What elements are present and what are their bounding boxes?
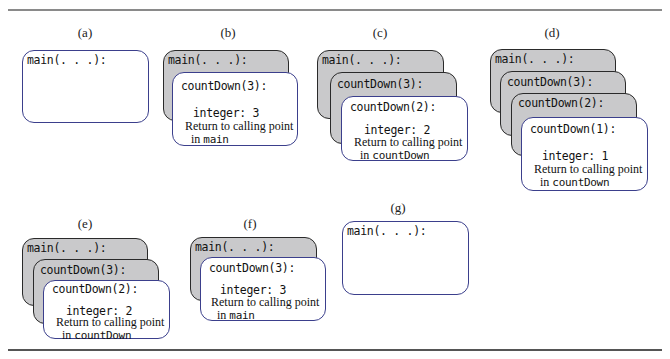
return-in: in <box>62 328 71 342</box>
frame-title: countDown(2): <box>350 100 436 114</box>
panel-label: (e) <box>78 216 92 232</box>
main-frame: main(. . .): <box>22 50 149 123</box>
panel-label: (d) <box>544 25 559 41</box>
frame-title: countDown(3): <box>209 261 295 275</box>
return-in: in <box>540 175 549 189</box>
return-target: main <box>229 309 254 322</box>
frame-title: main(. . .): <box>495 52 574 66</box>
return-target: main <box>203 133 228 146</box>
return-target: countDown <box>372 149 429 162</box>
main-frame: main(. . .): <box>342 221 469 295</box>
countdown-2-frame: countDown(2): integer: 2 Return to calli… <box>341 96 468 161</box>
return-in: in <box>217 308 226 322</box>
frame-title: countDown(3): <box>337 77 423 91</box>
countdown-1-frame: countDown(1): integer: 1 Return to calli… <box>521 117 648 191</box>
return-note: Return to calling point in countDown <box>534 163 642 189</box>
frame-title: countDown(2): <box>52 282 138 296</box>
frame-title: main(. . .): <box>168 53 247 67</box>
frame-title: main(. . .): <box>195 240 274 254</box>
countdown-2-frame: countDown(2): integer: 2 Return to calli… <box>43 280 170 339</box>
frame-title: main(. . .): <box>347 224 426 238</box>
variable-value: integer: 3 <box>193 106 259 120</box>
return-note: Return to calling point in countDown <box>56 316 164 342</box>
bottom-rule <box>8 349 662 351</box>
frame-title: countDown(3): <box>40 263 126 277</box>
frame-title: countDown(1): <box>530 122 616 136</box>
frame-title: countDown(2): <box>518 96 604 110</box>
return-note: Return to calling point in main <box>185 120 293 146</box>
panel-label: (g) <box>390 200 405 216</box>
return-in: in <box>191 132 200 146</box>
countdown-3-frame: countDown(3): integer: 3 Return to calli… <box>172 72 298 146</box>
return-note: Return to calling point in main <box>211 296 319 322</box>
frame-title: main(. . .): <box>27 241 106 255</box>
return-target: countDown <box>552 176 609 189</box>
return-in: in <box>360 148 369 162</box>
frame-title: main(. . .): <box>322 53 401 67</box>
variable-value: integer: 1 <box>542 149 608 163</box>
panel-label: (a) <box>78 25 92 41</box>
top-rule <box>8 9 662 11</box>
frame-title: countDown(3): <box>181 79 267 93</box>
panel-label: (b) <box>220 25 235 41</box>
frame-title: main(. . .): <box>27 53 106 67</box>
countdown-3-frame: countDown(3): integer: 3 Return to calli… <box>200 257 326 321</box>
return-target: countDown <box>74 329 131 342</box>
return-note: Return to calling point in countDown <box>354 136 462 162</box>
panel-label: (c) <box>373 25 387 41</box>
frame-title: countDown(3): <box>507 75 593 89</box>
panel-label: (f) <box>244 216 257 232</box>
